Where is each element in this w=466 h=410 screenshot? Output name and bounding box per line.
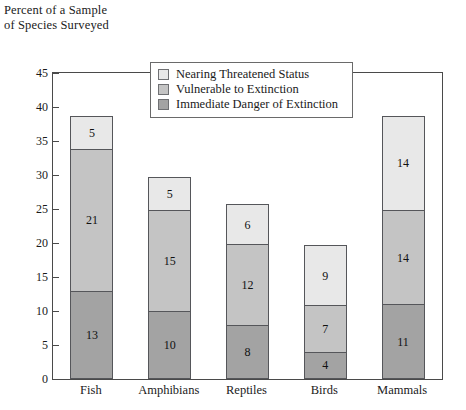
y-tick-mark (53, 345, 59, 346)
x-tick-label: Fish (80, 383, 102, 397)
bar-segment: 6 (226, 204, 269, 245)
legend-swatch (158, 69, 169, 80)
stacked-bar: 141411 (382, 116, 425, 379)
y-tick-label: 15 (20, 271, 48, 283)
y-axis-caption: Percent of a Sample of Species Surveyed (4, 3, 109, 32)
legend-item: Nearing Threatened Status (158, 67, 345, 82)
bar-segment: 11 (382, 304, 425, 379)
y-tick-mark (53, 379, 59, 380)
y-tick-mark (53, 311, 59, 312)
plot-area: 051015202530354045 521135151061289741414… (52, 72, 443, 380)
bar-segment: 5 (70, 116, 113, 150)
y-tick-label: 5 (20, 339, 48, 351)
bar-segment: 10 (148, 311, 191, 379)
bar-segment: 14 (382, 210, 425, 305)
stacked-bar: 52113 (70, 116, 113, 379)
legend-label: Vulnerable to Extinction (176, 83, 299, 96)
y-tick-mark (53, 243, 59, 244)
y-tick-mark (53, 107, 59, 108)
bar-segment: 12 (226, 244, 269, 326)
x-tick-label: Mammals (377, 383, 427, 397)
legend-swatch (158, 84, 169, 95)
legend-label: Nearing Threatened Status (176, 68, 309, 81)
x-tick-label: Amphibians (138, 383, 199, 397)
y-tick-label: 45 (20, 67, 48, 79)
y-tick-label: 0 (20, 373, 48, 385)
y-tick-mark (53, 209, 59, 210)
y-tick-mark (53, 73, 59, 74)
legend-swatch (158, 99, 169, 110)
y-tick-mark (53, 175, 59, 176)
bar-segment: 13 (70, 291, 113, 379)
stacked-bar: 6128 (226, 204, 269, 379)
x-tick-label: Birds (311, 383, 338, 397)
y-tick-label: 40 (20, 101, 48, 113)
y-tick-label: 30 (20, 169, 48, 181)
legend-item: Vulnerable to Extinction (158, 82, 345, 97)
y-tick-mark (53, 141, 59, 142)
y-tick-label: 10 (20, 305, 48, 317)
legend-label: Immediate Danger of Extinction (176, 98, 338, 111)
y-tick-label: 20 (20, 237, 48, 249)
bar-segment: 9 (304, 245, 347, 306)
y-tick-label: 25 (20, 203, 48, 215)
stacked-bar: 974 (304, 245, 347, 379)
bar-segment: 7 (304, 305, 347, 353)
bar-segment: 8 (226, 325, 269, 379)
bar-segment: 21 (70, 149, 113, 292)
legend-item: Immediate Danger of Extinction (158, 97, 345, 112)
bar-segment: 4 (304, 352, 347, 379)
y-tick-mark (53, 277, 59, 278)
bar-segment: 15 (148, 210, 191, 312)
x-tick-label: Reptiles (226, 383, 267, 397)
bar-segment: 5 (148, 177, 191, 211)
y-tick-label: 35 (20, 135, 48, 147)
bar-segment: 14 (382, 116, 425, 211)
chart-legend: Nearing Threatened StatusVulnerable to E… (150, 62, 353, 118)
stacked-bar: 51510 (148, 177, 191, 379)
